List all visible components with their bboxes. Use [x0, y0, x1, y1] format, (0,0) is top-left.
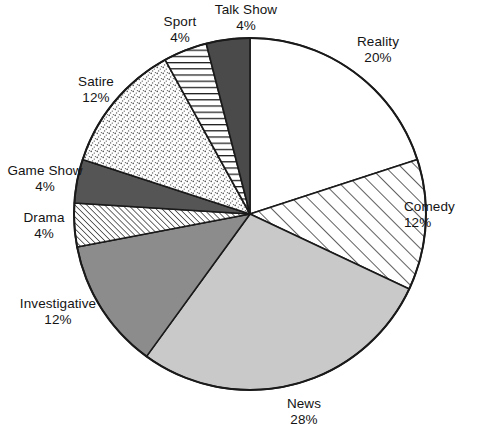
pie-label-investigative: Investigative 12%: [10, 296, 106, 328]
pie-label-satire: Satire 12%: [58, 74, 134, 106]
pie-label-comedy: Comedy 12%: [404, 199, 484, 231]
pie-label-comedy-name: Comedy: [404, 199, 484, 215]
pie-label-drama-value: 4%: [8, 226, 80, 242]
pie-label-talk-show: Talk Show 4%: [200, 2, 292, 34]
pie-chart-figure: Reality 20% Comedy 12% News 28% Investig…: [0, 0, 484, 436]
pie-label-game-show-value: 4%: [2, 179, 88, 195]
pie-label-investigative-name: Investigative: [10, 296, 106, 312]
pie-label-talk-show-value: 4%: [200, 18, 292, 34]
pie-label-satire-value: 12%: [58, 90, 134, 106]
pie-label-game-show: Game Show 4%: [2, 163, 88, 195]
pie-label-reality-name: Reality: [332, 34, 424, 50]
pie-label-drama: Drama 4%: [8, 210, 80, 242]
pie-label-drama-name: Drama: [8, 210, 80, 226]
pie-label-reality-value: 20%: [332, 50, 424, 66]
pie-label-talk-show-name: Talk Show: [200, 2, 292, 18]
pie-label-comedy-value: 12%: [404, 215, 484, 231]
pie-label-news-value: 28%: [258, 412, 350, 428]
pie-label-reality: Reality 20%: [332, 34, 424, 66]
pie-label-game-show-name: Game Show: [2, 163, 88, 179]
pie-label-investigative-value: 12%: [10, 312, 106, 328]
pie-label-satire-name: Satire: [58, 74, 134, 90]
pie-label-news: News 28%: [258, 396, 350, 428]
pie-label-news-name: News: [258, 396, 350, 412]
